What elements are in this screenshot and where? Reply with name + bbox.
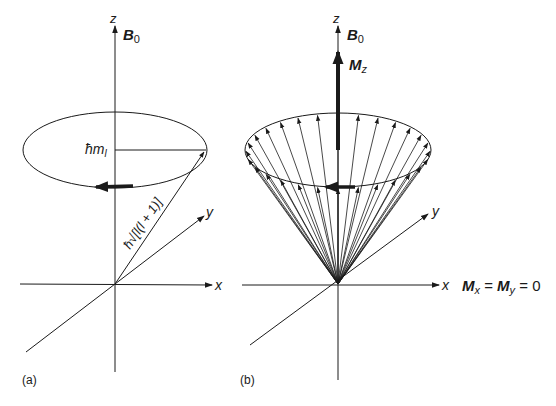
spin-vector: [255, 135, 338, 284]
x-axis-label-a: x: [214, 277, 223, 293]
angular-momentum-vector: [115, 152, 204, 284]
spin-vector: [281, 123, 339, 285]
x-axis-label-b: x: [441, 277, 450, 293]
field-label-b: B0: [347, 26, 364, 45]
precession-diagram: z B0 ħml ħ√[l(l + 1)] x y (a) z B0 Mz x …: [0, 0, 556, 406]
spin-vector: [338, 128, 410, 284]
panel-a: [20, 26, 212, 372]
precession-direction-arrow: [96, 186, 133, 187]
caption-b: (b): [240, 373, 255, 387]
net-magnetization-label: Mz: [349, 56, 368, 75]
caption-a: (a): [22, 373, 37, 387]
z-axis-label-a: z: [109, 11, 117, 26]
spin-vector: [338, 123, 396, 285]
field-label-a: B0: [123, 26, 140, 45]
spin-vector: [338, 135, 421, 284]
y-axis-label-a: y: [205, 204, 214, 220]
z-axis-label-b: z: [332, 11, 340, 26]
spin-vector: [298, 118, 338, 284]
panel-b: [242, 26, 439, 380]
transverse-magnetization-label: Mx = My = 0: [462, 277, 541, 296]
spin-vector: [266, 128, 338, 284]
x-axis: [20, 284, 212, 285]
spin-vector: [338, 143, 428, 284]
spin-vector: [338, 118, 378, 284]
projection-label: ħml: [85, 141, 107, 159]
spin-vector: [248, 143, 338, 284]
y-axis-label-b: y: [431, 203, 440, 219]
